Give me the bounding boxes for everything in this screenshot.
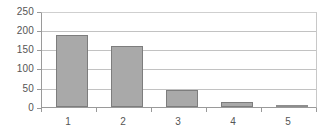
x-tick-label-2: 2: [103, 116, 143, 127]
bar-category-4: [221, 102, 253, 107]
gridline-200: [42, 31, 316, 32]
y-tick-label-150: 150: [0, 45, 34, 55]
x-tick-mark-0: [41, 108, 42, 112]
x-tick-label-1: 1: [48, 116, 88, 127]
x-tick-label-4: 4: [213, 116, 253, 127]
x-tick-label-5: 5: [268, 116, 308, 127]
x-tick-mark-5: [316, 108, 317, 112]
x-tick-mark-3: [206, 108, 207, 112]
x-tick-mark-1: [96, 108, 97, 112]
x-tick-mark-4: [261, 108, 262, 112]
x-tick-label-3: 3: [158, 116, 198, 127]
bar-category-3: [166, 90, 198, 107]
y-tick-label-200: 200: [0, 26, 34, 36]
bar-category-5: [276, 105, 308, 107]
x-tick-mark-2: [151, 108, 152, 112]
bar-category-1: [56, 35, 88, 107]
y-tick-label-250: 250: [0, 7, 34, 17]
y-tick-label-100: 100: [0, 64, 34, 74]
y-tick-label-50: 50: [0, 84, 34, 94]
y-tick-label-0: 0: [0, 103, 34, 113]
bar-category-2: [111, 46, 143, 107]
bar-chart: 250 200 150 100 50 0 1 2 3 4 5: [0, 0, 326, 137]
plot-area: [41, 12, 317, 108]
